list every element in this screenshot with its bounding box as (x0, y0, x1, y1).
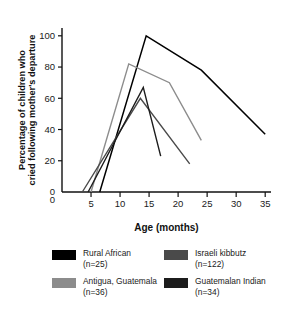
legend-item: Antigua, Guatemala(n=36) (52, 276, 164, 297)
legend-series-name: Israeli kibbutz (195, 248, 246, 258)
y-tick-label: 20 (44, 155, 55, 166)
legend-label-antigua-guatemala: Antigua, Guatemala(n=36) (83, 276, 164, 297)
legend-series-name: Antigua, Guatemala (83, 276, 157, 286)
legend-label-rural-african: Rural African(n=25) (83, 248, 164, 269)
legend-swatch-israeli-kibbutz (164, 250, 188, 260)
figure: 0204060801005101520253035Age (months)Per… (0, 0, 299, 328)
legend-series-n: (n=34) (195, 287, 286, 298)
line-chart: 0204060801005101520253035Age (months)Per… (0, 0, 299, 240)
legend-swatch-rural-african (52, 250, 76, 260)
x-tick-label: 35 (260, 198, 271, 209)
x-tick-label: 30 (231, 198, 242, 209)
legend-label-israeli-kibbutz: Israeli kibbutz(n=122) (195, 248, 286, 269)
x-tick-label: 5 (88, 198, 93, 209)
series-line-antigua-guatemala (91, 64, 201, 192)
y-axis-title-line: Percentage of children who (17, 50, 27, 170)
series-line-israeli-kibbutz (82, 98, 189, 192)
x-tick-label: 10 (115, 198, 126, 209)
y-axis-title: Percentage of children whocried followin… (17, 35, 37, 186)
series-line-rural-african (100, 36, 265, 192)
legend-series-n: (n=25) (83, 259, 164, 270)
legend-label-guatemalan-indian: Guatemalan Indian(n=34) (195, 276, 286, 297)
legend-swatch-guatemalan-indian (164, 278, 188, 288)
chart-plot-area: 0204060801005101520253035Age (months)Per… (0, 0, 299, 240)
y-tick-label: 60 (44, 93, 55, 104)
legend-swatch-antigua-guatemala (52, 278, 76, 288)
x-tick-label: 15 (144, 198, 155, 209)
legend-series-name: Guatemalan Indian (195, 276, 266, 286)
y-axis-title-line: cried following mother's departure (27, 35, 37, 186)
legend-series-n: (n=122) (195, 259, 286, 270)
x-tick-label: 20 (173, 198, 184, 209)
x-tick-label: 25 (202, 198, 213, 209)
y-tick-label: 80 (44, 61, 55, 72)
legend-series-name: Rural African (83, 248, 131, 258)
origin-label: 0 (50, 194, 55, 205)
legend-item: Israeli kibbutz(n=122) (164, 248, 286, 269)
x-axis-title: Age (months) (134, 222, 198, 233)
series-line-guatemalan-indian (88, 87, 161, 192)
legend-series-n: (n=36) (83, 287, 164, 298)
chart-legend: Rural African(n=25) Israeli kibbutz(n=12… (52, 248, 292, 297)
legend-item: Rural African(n=25) (52, 248, 164, 269)
y-tick-label: 40 (44, 124, 55, 135)
legend-item: Guatemalan Indian(n=34) (164, 276, 286, 297)
y-tick-label: 100 (39, 30, 55, 41)
